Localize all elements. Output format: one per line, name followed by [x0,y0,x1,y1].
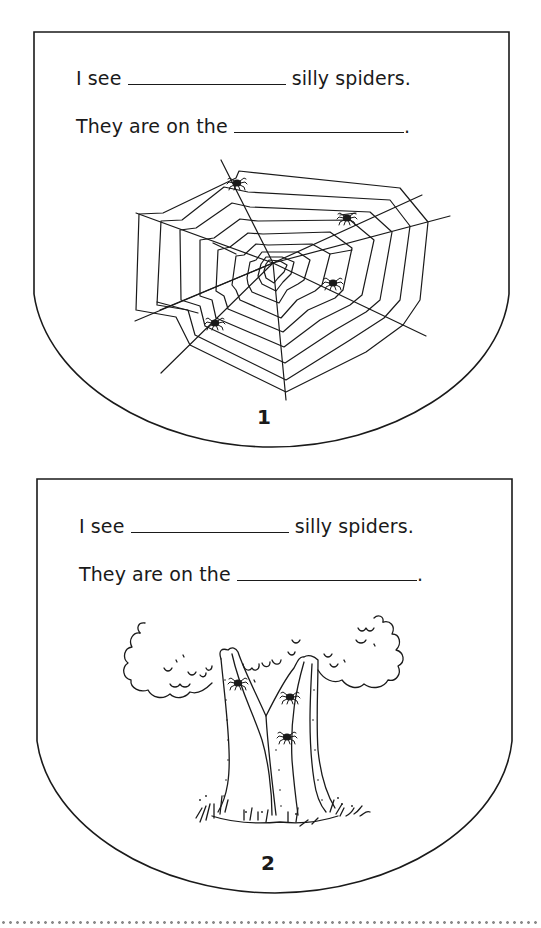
sentence-prefix: They are on the [76,115,228,137]
spider-icon [277,732,297,744]
page-2-sentence-2: They are on the . [79,562,423,585]
tree-illustration [124,616,403,826]
page-number: 2 [253,851,283,875]
sentence-prefix: They are on the [79,563,231,585]
sentence-suffix: . [404,115,410,137]
page-number: 1 [249,405,279,429]
spider-icon [228,678,248,690]
page-1-sentence-1: I see silly spiders. [76,66,411,89]
bark-texture [199,679,353,815]
spider-icon [205,318,225,330]
sentence-suffix: . [417,563,423,585]
spider-icon [323,278,343,290]
sentence-suffix: silly spiders. [292,67,411,89]
answer-blank-count[interactable] [128,66,286,85]
page-2-sentence-1: I see silly spiders. [79,514,414,537]
sentence-suffix: silly spiders. [295,515,414,537]
answer-blank-location[interactable] [234,114,404,133]
spider-icon [227,178,247,190]
sentence-prefix: I see [79,515,124,537]
sentence-prefix: I see [76,67,121,89]
answer-blank-location[interactable] [237,562,417,581]
worksheet-artwork [0,0,541,928]
answer-blank-count[interactable] [131,514,289,533]
spider-web-illustration [135,160,450,400]
panel-2-outline [37,479,512,893]
page-1-sentence-2: They are on the . [76,114,410,137]
dotted-cut-line [0,921,541,924]
